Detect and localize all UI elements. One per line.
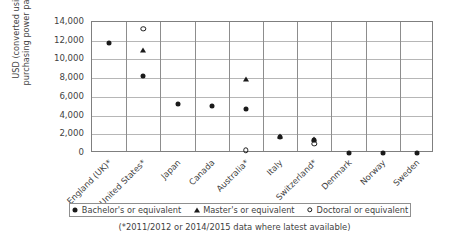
data-point: [312, 141, 317, 146]
gridline-horizontal: [92, 134, 432, 135]
y-axis-tick-label: 6,000: [59, 91, 84, 101]
plot-area: [91, 21, 433, 152]
y-axis-tick-label: 12,000: [54, 35, 84, 45]
legend-item[interactable]: Master's or equivalent: [193, 205, 294, 215]
chart-footnote: (*2011/2012 or 2014/2015 data where late…: [0, 222, 469, 232]
data-point: [141, 74, 146, 79]
legend-label: Doctoral or equivalent: [317, 205, 409, 215]
data-point: [107, 40, 112, 45]
legend-label: Bachelor's or equivalent: [82, 205, 181, 215]
gridline-vertical: [126, 22, 127, 151]
gridline-horizontal: [92, 59, 432, 60]
y-axis-tick-label: 8,000: [59, 72, 84, 82]
data-point: [243, 107, 248, 112]
y-axis-tick-label: 4,000: [59, 110, 84, 120]
data-point: [243, 77, 249, 82]
gridline-vertical: [195, 22, 196, 151]
chart-figure: USD (converted using purchasing power pa…: [0, 0, 469, 241]
gridline-horizontal: [92, 97, 432, 98]
gridline-vertical: [400, 22, 401, 151]
legend-item[interactable]: Bachelor's or equivalent: [72, 205, 181, 215]
data-point: [277, 134, 283, 139]
legend-marker-icon: [72, 207, 79, 214]
gridline-vertical: [263, 22, 264, 151]
legend-marker-icon: [193, 207, 200, 214]
data-point: [140, 48, 146, 53]
y-axis-tick-label: 14,000: [54, 16, 84, 26]
gridline-vertical: [160, 22, 161, 151]
legend-item[interactable]: Doctoral or equivalent: [307, 205, 409, 215]
gridline-vertical: [297, 22, 298, 151]
legend-marker-icon: [307, 207, 314, 214]
gridline-horizontal: [92, 116, 432, 117]
data-point: [141, 26, 146, 31]
gridline-vertical: [229, 22, 230, 151]
chart-legend: Bachelor's or equivalentMaster's or equi…: [69, 203, 411, 217]
legend-label: Master's or equivalent: [203, 205, 294, 215]
x-axis-tick-labels: England (UK)*United States*JapanCanadaAu…: [0, 152, 469, 202]
y-axis-tick-labels: 02,0004,0006,0008,00010,00012,00014,000: [0, 21, 88, 152]
data-point: [175, 102, 180, 107]
gridline-vertical: [366, 22, 367, 151]
gridline-horizontal: [92, 41, 432, 42]
y-axis-tick-label: 2,000: [59, 128, 84, 138]
gridline-vertical: [331, 22, 332, 151]
y-axis-tick-label: 10,000: [54, 53, 84, 63]
data-point: [209, 104, 214, 109]
